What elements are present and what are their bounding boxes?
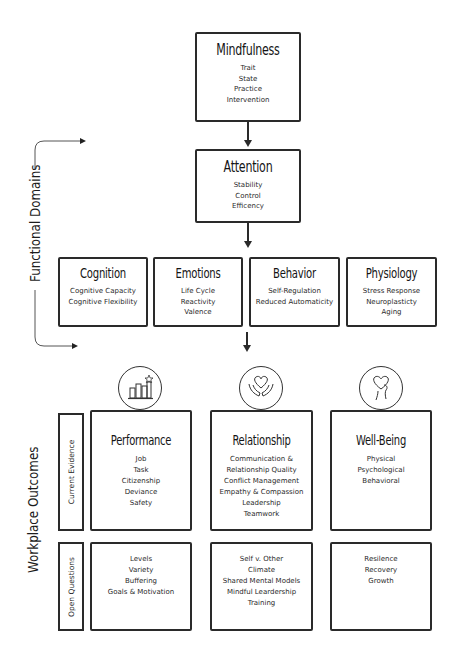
current-evidence-label-box: Current Evidence [58,413,84,531]
domain-box-emotions: Emotions Life Cycle Reactivity Valence [153,257,243,327]
domain-item: Neuroplasticty [348,297,435,308]
question-item: Buffering [92,576,190,587]
relationship-questions-box: Self v. Other Climate Shared Mental Mode… [210,542,313,631]
domain-title: Cognition [69,265,138,281]
evidence-item: Physical [332,454,430,465]
attention-title: Attention [206,158,290,176]
question-item: Growth [332,576,430,587]
evidence-item: Task [92,465,190,476]
mindfulness-item: Intervention [197,95,299,106]
domain-item: Aging [348,307,435,318]
domain-item: Self-Regulation [251,286,338,297]
domain-item: Stress Response [348,286,435,297]
question-item: Mindful Leardership [212,587,311,598]
evidence-item: Empathy & Compassion [212,487,311,498]
domain-item: Valence [155,307,241,318]
question-item: Variety [92,565,190,576]
arrow-down-icon [244,140,252,147]
domain-item: Reduced Automaticity [251,297,338,308]
mindfulness-item: Trait [197,63,299,74]
bar-chart-star-icon [118,366,162,410]
outcome-title: Relationship [221,432,302,448]
question-item: Resilence [332,554,430,565]
domain-item: Cognitive Flexibility [60,297,146,308]
question-item: Levels [92,554,190,565]
well-being-evidence-box: Well-Being Physical Psychological Behavi… [330,410,432,531]
domain-box-cognition: Cognition Cognitive Capacity Cognitive F… [58,257,148,327]
evidence-item: Citizenship [92,476,190,487]
mindfulness-title: Mindfulness [206,41,290,59]
domain-box-physiology: Physiology Stress Response Neuroplastict… [346,257,437,327]
question-item: Training [212,598,311,609]
heart-in-hands-icon [239,366,283,410]
question-item: Recovery [332,565,430,576]
evidence-item: Relationship Quality [212,465,311,476]
mindfulness-item: Practice [197,84,299,95]
evidence-item: Safety [92,498,190,509]
evidence-item: Psychological [332,465,430,476]
domain-box-behavior: Behavior Self-Regulation Reduced Automat… [249,257,340,327]
relationship-evidence-box: Relationship Communication & Relationshi… [210,410,313,531]
domain-item: Reactivity [155,297,241,308]
domain-title: Emotions [164,265,233,281]
question-item: Goals & Motivation [92,587,190,598]
question-item: Climate [212,565,311,576]
performance-evidence-box: Performance Job Task Citizenship Devianc… [90,410,192,531]
current-evidence-label: Current Evidence [67,440,76,505]
well-being-questions-box: Resilence Recovery Growth [330,542,432,631]
attention-items: Stability Control Efficency [197,180,299,212]
evidence-item: Leadership [212,498,311,509]
domain-item: Cognitive Capacity [60,286,146,297]
question-item: Self v. Other [212,554,311,565]
domain-title: Behavior [260,265,330,281]
mindfulness-item: State [197,74,299,85]
evidence-item: Teamwork [212,509,311,520]
domain-item: Life Cycle [155,286,241,297]
evidence-item: Deviance [92,487,190,498]
connector-line [247,122,249,142]
attention-box: Attention Stability Control Efficency [195,149,301,223]
attention-item: Stability [197,180,299,191]
evidence-item: Conflict Management [212,476,311,487]
connector-line [247,223,249,243]
outcome-title: Performance [101,432,181,448]
arrow-down-icon [244,241,252,248]
evidence-item: Job [92,454,190,465]
performance-questions-box: Levels Variety Buffering Goals & Motivat… [90,542,192,631]
question-item: Shared Mental Models [212,576,311,587]
open-questions-label-box: Open Questions [58,542,84,631]
mindfulness-items: Trait State Practice Intervention [197,63,299,105]
evidence-item: Behavioral [332,476,430,487]
domain-title: Physiology [357,265,427,281]
open-questions-label: Open Questions [67,557,76,617]
mindfulness-box: Mindfulness Trait State Practice Interve… [195,32,301,122]
outcome-title: Well-Being [341,432,421,448]
heart-head-icon [359,366,403,410]
arrow-down-icon [243,345,251,352]
evidence-item: Communication & [212,454,311,465]
attention-item: Efficency [197,201,299,212]
workplace-outcomes-label: Workplace Outcomes [24,471,42,573]
functional-domains-label: Functional Domains [26,180,44,282]
attention-item: Control [197,191,299,202]
